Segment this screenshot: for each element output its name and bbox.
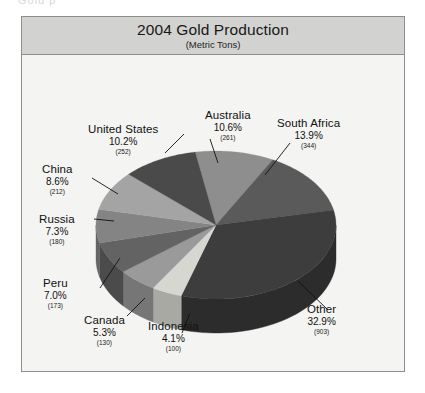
- pie-label-other: Other 32.9% (903): [307, 303, 336, 335]
- scan-text-fragment: Gold p: [18, 0, 56, 6]
- chart-subtitle: (Metric Tons): [186, 40, 241, 50]
- pie-label-percent: 32.9%: [307, 317, 336, 328]
- pie-label-name: Canada: [84, 314, 125, 326]
- pie-label-canada: Canada 5.3% (130): [84, 314, 125, 346]
- pie-chart-svg: [22, 55, 404, 371]
- pie-label-name: Peru: [43, 277, 68, 289]
- pie-label-united-states: United States 10.2% (252): [88, 123, 158, 155]
- pie-label-percent: 13.9%: [277, 131, 340, 142]
- pie-label-china: China 8.6% (212): [42, 163, 73, 195]
- pie-label-russia: Russia 7.3% (180): [39, 213, 75, 245]
- pie-label-peru: Peru 7.0% (173): [43, 277, 68, 309]
- pie-label-name: Australia: [205, 109, 251, 121]
- pie-label-name: Indonesia: [148, 320, 199, 332]
- pie-label-percent: 10.6%: [205, 123, 251, 134]
- page-title: 2004 Gold Production: [137, 22, 289, 38]
- pie-label-percent: 7.3%: [39, 227, 75, 238]
- pie-label-name: United States: [88, 123, 158, 135]
- pie-label-value: (903): [307, 329, 336, 336]
- pie-label-name: China: [42, 163, 73, 175]
- pie-label-percent: 8.6%: [42, 177, 73, 188]
- chart-title-band: 2004 Gold Production (Metric Tons): [22, 17, 404, 55]
- pie-label-value: (344): [277, 143, 340, 150]
- pie-label-value: (130): [84, 340, 125, 347]
- pie-label-south-africa: South Africa 13.9% (344): [277, 117, 340, 149]
- pie-label-value: (212): [42, 189, 73, 196]
- pie-label-percent: 7.0%: [43, 291, 68, 302]
- pie-chart-plot-area: United States 10.2% (252) China 8.6% (21…: [22, 55, 404, 371]
- pie-label-indonesia: Indonesia 4.1% (100): [148, 320, 199, 352]
- pie-label-name: Other: [307, 303, 336, 315]
- pie-label-value: (252): [88, 149, 158, 156]
- pie-label-australia: Australia 10.6% (261): [205, 109, 251, 141]
- pie-top-faces: [96, 151, 336, 299]
- pie-label-name: South Africa: [277, 117, 340, 129]
- pie-label-percent: 5.3%: [84, 328, 125, 339]
- pie-label-value: (173): [43, 303, 68, 310]
- pie-label-percent: 4.1%: [148, 334, 199, 345]
- chart-frame: 2004 Gold Production (Metric Tons) Unite…: [21, 16, 405, 372]
- leader-line: [165, 134, 184, 153]
- pie-label-name: Russia: [39, 213, 75, 225]
- pie-label-percent: 10.2%: [88, 137, 158, 148]
- pie-label-value: (100): [148, 346, 199, 353]
- pie-label-value: (261): [205, 135, 251, 142]
- pie-label-value: (180): [39, 239, 75, 246]
